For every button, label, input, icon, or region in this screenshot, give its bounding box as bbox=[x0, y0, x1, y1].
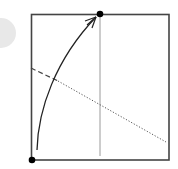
fold-diagram bbox=[0, 0, 178, 169]
top-edge-dot bbox=[97, 11, 104, 18]
arrowhead-icon bbox=[85, 17, 96, 28]
mountain-fold-dotted-line bbox=[58, 81, 166, 142]
fold-arrow-curve bbox=[37, 17, 96, 150]
bottom-left-dot bbox=[29, 157, 36, 164]
